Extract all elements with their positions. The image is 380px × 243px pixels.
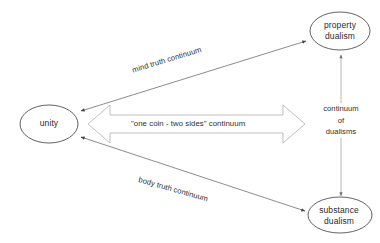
diagram-canvas: unity property dualism substance dualism… [0, 0, 380, 243]
edge-continuum-of-dualisms-label: continuum of dualisms [314, 103, 368, 138]
node-unity-shape[interactable] [20, 105, 78, 143]
edge-continuum-of-dualisms-label-line-2: of [314, 115, 368, 127]
edge-continuum-of-dualisms-label-line-1: continuum [314, 103, 368, 115]
edge-continuum-of-dualisms-label-line-3: dualisms [314, 126, 368, 138]
node-property-dualism-shape[interactable] [310, 12, 370, 50]
edge-body-truth-continuum [81, 137, 305, 211]
node-substance-dualism-shape[interactable] [308, 197, 372, 233]
edge-one-coin-two-sides-label: "one coin - two sides" continuum [131, 119, 245, 128]
